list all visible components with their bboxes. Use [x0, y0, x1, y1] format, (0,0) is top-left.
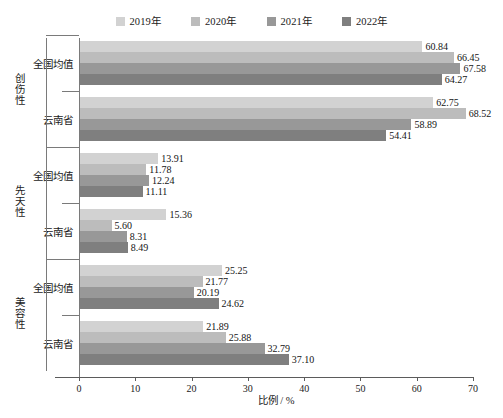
x-axis-tick [135, 377, 136, 381]
y-axis-subgroup-label: 全国均值 [3, 168, 73, 183]
bar-value-label: 32.79 [268, 343, 291, 354]
x-axis-tick [79, 377, 80, 381]
x-axis-tick [417, 377, 418, 381]
y-axis-major-separator [46, 147, 79, 148]
bar-2019年-先天性-全国均值 [80, 153, 158, 164]
legend-item-2021年: 2021年 [267, 16, 313, 27]
bar-value-label: 11.11 [146, 186, 168, 197]
y-axis-subgroup-label: 云南省 [3, 224, 73, 239]
bar-value-label: 5.60 [115, 220, 133, 231]
bar-value-label: 60.84 [425, 41, 448, 52]
y-axis-major-separator [46, 259, 79, 260]
bar-2021年-创伤性-全国均值 [80, 63, 460, 74]
bar-2022年-先天性-云南省 [80, 242, 128, 253]
bar-2020年-美容性-云南省 [80, 332, 226, 343]
bar-value-label: 15.36 [169, 209, 192, 220]
bar-value-label: 8.31 [130, 231, 148, 242]
legend-item-label: 2021年 [281, 16, 313, 27]
bar-2020年-先天性-全国均值 [80, 164, 146, 175]
legend-item-2019年: 2019年 [116, 16, 162, 27]
bar-2021年-创伤性-云南省 [80, 119, 411, 130]
bar-value-label: 37.10 [292, 354, 315, 365]
bar-2020年-创伤性-云南省 [80, 108, 466, 119]
bar-value-label: 20.19 [197, 287, 220, 298]
y-axis-group-label: 美容性 [11, 297, 26, 330]
bar-2022年-先天性-全国均值 [80, 186, 143, 197]
bar-2020年-美容性-全国均值 [80, 276, 203, 287]
legend-swatch-icon [116, 17, 125, 26]
bar-value-label: 25.25 [225, 265, 248, 276]
y-axis-group-label: 创伤性 [11, 73, 26, 106]
bar-value-label: 8.49 [131, 242, 149, 253]
bar-2019年-先天性-云南省 [80, 209, 166, 220]
y-axis-minor-separator [62, 203, 79, 204]
bar-2019年-创伤性-云南省 [80, 97, 433, 108]
x-axis-title: 比例 / % [79, 392, 473, 407]
bar-value-label: 54.41 [389, 130, 412, 141]
y-axis-subgroup-label: 云南省 [3, 336, 73, 351]
y-axis-top-separator [46, 35, 79, 36]
legend-item-2020年: 2020年 [191, 16, 237, 27]
bar-2021年-美容性-全国均值 [80, 287, 194, 298]
plot-area: 01020304050607060.8466.4567.5864.2762.75… [79, 38, 473, 377]
y-axis-group-label: 先天性 [11, 185, 26, 218]
chart-legend: 2019年2020年2021年2022年 [0, 16, 503, 27]
bar-value-label: 13.91 [161, 153, 184, 164]
y-axis-subgroup-label: 云南省 [3, 112, 73, 127]
bar-2021年-先天性-云南省 [80, 231, 127, 242]
bar-2022年-美容性-全国均值 [80, 298, 219, 309]
y-axis-minor-separator [62, 91, 79, 92]
x-axis-tick [304, 377, 305, 381]
bar-2019年-美容性-全国均值 [80, 265, 222, 276]
x-axis-tick [248, 377, 249, 381]
legend-swatch-icon [267, 17, 276, 26]
bar-value-label: 68.52 [469, 108, 492, 119]
bar-value-label: 58.89 [414, 119, 437, 130]
bar-value-label: 64.27 [445, 74, 468, 85]
y-axis-minor-separator [62, 315, 79, 316]
bar-2020年-创伤性-全国均值 [80, 52, 454, 63]
y-axis-group-bracket [46, 147, 47, 259]
legend-swatch-icon [191, 17, 200, 26]
y-axis-subgroup-label: 全国均值 [3, 280, 73, 295]
x-axis-tick [473, 377, 474, 381]
bar-2022年-美容性-云南省 [80, 354, 289, 365]
bar-value-label: 25.88 [229, 332, 252, 343]
legend-swatch-icon [342, 17, 351, 26]
bar-2019年-创伤性-全国均值 [80, 41, 422, 52]
y-axis-group-bracket [46, 38, 47, 150]
x-axis-tick [192, 377, 193, 381]
bar-value-label: 12.24 [152, 175, 175, 186]
y-axis-group-bracket [46, 259, 47, 371]
bar-value-label: 67.58 [463, 63, 486, 74]
bar-2022年-创伤性-云南省 [80, 130, 386, 141]
bar-chart: 2019年2020年2021年2022年 01020304050607060.8… [0, 0, 503, 418]
y-axis-subgroup-label: 全国均值 [3, 56, 73, 71]
bar-value-label: 62.75 [436, 97, 459, 108]
bar-2021年-先天性-全国均值 [80, 175, 149, 186]
bar-value-label: 11.78 [149, 164, 171, 175]
bar-2021年-美容性-云南省 [80, 343, 265, 354]
legend-item-label: 2019年 [130, 16, 162, 27]
bar-value-label: 24.62 [222, 298, 245, 309]
legend-item-label: 2020年 [205, 16, 237, 27]
bar-2022年-创伤性-全国均值 [80, 74, 442, 85]
x-axis-tick [360, 377, 361, 381]
bar-2020年-先天性-云南省 [80, 220, 112, 231]
bar-value-label: 66.45 [457, 52, 480, 63]
legend-item-label: 2022年 [356, 16, 388, 27]
bar-value-label: 21.89 [206, 321, 229, 332]
legend-item-2022年: 2022年 [342, 16, 388, 27]
bar-value-label: 21.77 [206, 276, 229, 287]
bar-2019年-美容性-云南省 [80, 321, 203, 332]
x-axis-line [55, 377, 473, 378]
